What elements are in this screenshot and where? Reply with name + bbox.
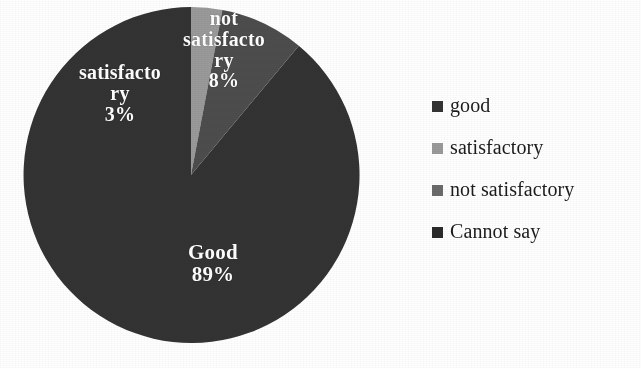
- pie-svg: [22, 4, 360, 346]
- legend-item-good[interactable]: good: [432, 84, 638, 126]
- legend-swatch-icon: [432, 143, 443, 154]
- legend-label-good: good: [450, 94, 490, 117]
- pie-chart: not satisfacto ry 8% satisfacto ry 3% Go…: [0, 0, 641, 368]
- legend-label-cannot-say: Cannot say: [450, 220, 540, 243]
- legend-label-not-satisfactory: not satisfactory: [450, 178, 574, 201]
- legend-swatch-icon: [432, 227, 443, 238]
- legend-swatch-icon: [432, 185, 443, 196]
- legend-item-satisfactory[interactable]: satisfactory: [432, 126, 638, 168]
- legend-label-satisfactory: satisfactory: [450, 136, 543, 159]
- pie-graphic: not satisfacto ry 8% satisfacto ry 3% Go…: [22, 4, 360, 346]
- chart-legend: good satisfactory not satisfactory Canno…: [432, 84, 638, 252]
- legend-item-not-satisfactory[interactable]: not satisfactory: [432, 168, 638, 210]
- legend-swatch-icon: [432, 101, 443, 112]
- legend-item-cannot-say[interactable]: Cannot say: [432, 210, 638, 252]
